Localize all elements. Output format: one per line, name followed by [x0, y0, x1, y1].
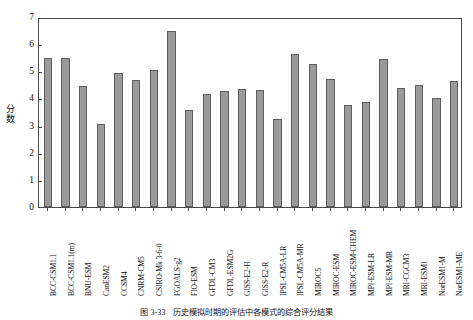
x-axis-tick-label: BCC-CSM1.1(m): [68, 243, 76, 296]
x-axis-tick-label: MRI-ESM1: [421, 261, 429, 297]
x-axis-tick-mark: [400, 208, 401, 211]
bar: [415, 85, 423, 207]
x-axis-tick-mark: [383, 208, 384, 211]
y-axis-tick-label: 3: [0, 122, 34, 132]
x-axis-tick-label: MIROC5: [315, 268, 323, 296]
x-axis-tick-mark: [188, 208, 189, 211]
bar: [450, 81, 458, 207]
x-axis-tick-mark: [241, 208, 242, 211]
bar: [114, 73, 122, 207]
y-axis-tick-mark: [38, 154, 42, 155]
bar: [397, 88, 405, 207]
figure-bar-chart: 分数 01234567 BCC-CSM1.1BCC-CSM1.1(m)BNU-E…: [0, 0, 473, 320]
x-axis-tick-label: MPI-ESM-LR: [368, 253, 376, 296]
x-axis-tick-label: FGOALS-g2: [174, 257, 182, 296]
x-axis-tick-label: MIROC-ESM: [333, 254, 341, 296]
bar: [185, 110, 193, 207]
y-axis-tick-label: 2: [0, 149, 34, 159]
x-axis-tick-mark: [277, 208, 278, 211]
y-axis-tick-mark: [38, 99, 42, 100]
plot-area: [38, 18, 462, 208]
x-axis-tick-mark: [312, 208, 313, 211]
x-axis-tick-label: MRI-CGCM3: [403, 254, 411, 296]
bar: [167, 31, 175, 207]
x-axis-tick-mark: [365, 208, 366, 211]
x-axis-tick-label: FIO-ESM: [191, 266, 199, 296]
figure-caption: 图 3-33历史模拟时期的评估中各模式的综合评分结果: [0, 308, 473, 318]
x-axis-tick-mark: [418, 208, 419, 211]
x-axis-tick-label: CNRM-CM5: [138, 256, 146, 296]
y-axis-tick-mark: [38, 45, 42, 46]
bar: [432, 98, 440, 207]
x-axis-tick-label: NorESM1-ME: [456, 252, 464, 296]
bar: [220, 91, 228, 207]
x-axis-tick-mark: [82, 208, 83, 211]
x-axis-tick-label: MIROC-ESM-CHEM: [350, 230, 358, 296]
caption-number: 图 3-33: [140, 308, 165, 317]
x-axis-tick-label: GISS-E2-H: [244, 261, 252, 296]
x-axis-tick-mark: [436, 208, 437, 211]
caption-text: 历史模拟时期的评估中各模式的综合评分结果: [173, 308, 333, 317]
x-axis-tick-mark: [206, 208, 207, 211]
x-axis-tick-label: GFDL-CM3: [209, 259, 217, 296]
x-axis-tick-label: MPI-ESM-MR: [386, 251, 394, 296]
x-axis-tick-mark: [135, 208, 136, 211]
bar: [309, 64, 317, 207]
x-axis-tick-label: CSIRO-Mk 3-6-0: [156, 244, 164, 296]
x-axis-tick-label: BCC-CSM1.1: [50, 254, 58, 296]
bar: [203, 94, 211, 207]
y-axis-tick-label: 5: [0, 68, 34, 78]
bar: [273, 119, 281, 207]
x-axis-tick-label: IPSL-CM5A-LR: [280, 246, 288, 296]
bar: [132, 80, 140, 207]
x-axis-tick-mark: [47, 208, 48, 211]
y-axis-tick-mark: [38, 18, 42, 19]
x-axis-tick-mark: [65, 208, 66, 211]
bar: [97, 124, 105, 207]
bar: [291, 54, 299, 207]
x-axis-tick-label: NorESM1-M: [439, 256, 447, 296]
bar: [344, 105, 352, 207]
y-axis-tick-label: 1: [0, 176, 34, 186]
x-axis-tick-mark: [153, 208, 154, 211]
x-axis-tick-label: CCSM4: [121, 272, 129, 296]
bar: [61, 58, 69, 207]
x-axis-tick-mark: [100, 208, 101, 211]
y-axis-tick-mark: [38, 181, 42, 182]
x-axis-tick-mark: [171, 208, 172, 211]
x-axis-tick-label: CanESM2: [103, 265, 111, 296]
bar: [362, 102, 370, 207]
x-axis-tick-mark: [294, 208, 295, 211]
x-axis-tick-label: GISS-E2-R: [262, 262, 270, 296]
y-axis-tick-mark: [38, 127, 42, 128]
bar: [326, 79, 334, 207]
bar: [150, 70, 158, 207]
bar: [79, 86, 87, 207]
bar: [44, 58, 52, 207]
x-axis-tick-label: BNU-ESM: [85, 263, 93, 296]
x-axis-tick-mark: [118, 208, 119, 211]
bar: [256, 90, 264, 207]
x-axis-tick-mark: [224, 208, 225, 211]
x-axis-tick-mark: [347, 208, 348, 211]
bar: [379, 59, 387, 207]
x-axis-tick-label: GFDL-ESM2G: [227, 250, 235, 296]
x-axis-tick-label: IPSL-CM5A-MR: [297, 244, 305, 296]
x-axis-tick-mark: [453, 208, 454, 211]
y-axis-tick-label: 6: [0, 40, 34, 50]
y-axis-tick-label: 7: [0, 13, 34, 23]
x-axis-tick-mark: [330, 208, 331, 211]
y-axis-tick-label: 4: [0, 95, 34, 105]
y-axis-tick-mark: [38, 72, 42, 73]
y-axis-tick-label: 0: [0, 203, 34, 213]
x-axis-tick-mark: [259, 208, 260, 211]
bar: [238, 89, 246, 207]
